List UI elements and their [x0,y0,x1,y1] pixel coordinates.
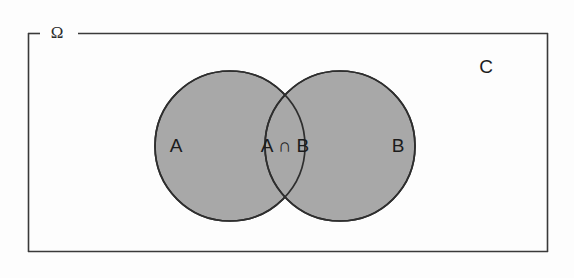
intersection-label: A ∩ B [261,135,310,156]
set-b-label: B [392,135,405,156]
complement-label: C [479,56,493,77]
venn-diagram-figure: Ω C A A ∩ B B [0,0,574,278]
universe-label: Ω [51,23,64,42]
set-a-label: A [170,135,183,156]
venn-diagram-canvas: Ω C A A ∩ B B [0,0,574,278]
